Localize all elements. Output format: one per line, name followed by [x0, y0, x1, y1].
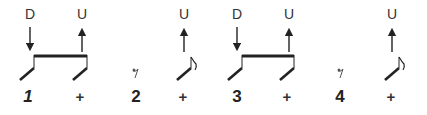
count-label-1: 1 [23, 87, 32, 107]
count-label-and: + [283, 88, 292, 105]
strum-notation [0, 0, 427, 115]
count-label-4: 4 [335, 87, 344, 107]
beamed-eighth-notes [228, 55, 294, 80]
flagged-eighth-note [177, 57, 196, 80]
count-label-and: + [76, 88, 85, 105]
count-label-2: 2 [131, 87, 140, 107]
eighth-rest-icon [338, 69, 344, 79]
count-label-3: 3 [232, 87, 241, 107]
count-label-and: + [387, 88, 396, 105]
count-label-and: + [179, 88, 188, 105]
beamed-eighth-notes [20, 55, 87, 80]
flagged-eighth-note [385, 57, 404, 80]
eighth-rest-icon [133, 69, 139, 79]
